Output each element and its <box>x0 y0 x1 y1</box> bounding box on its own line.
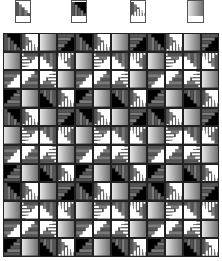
legend-tile-white-stairs <box>130 0 146 23</box>
quilt-tile <box>147 70 165 89</box>
quilt-tile <box>165 182 183 201</box>
quilt-tile <box>111 220 129 239</box>
quilt-tile <box>39 52 57 71</box>
quilt-tile <box>129 33 147 52</box>
quilt-tile <box>165 145 183 164</box>
quilt-tile <box>3 108 21 127</box>
quilt-tile <box>3 52 21 71</box>
quilt-tile <box>111 145 129 164</box>
quilt-tile <box>39 145 57 164</box>
quilt-tile <box>111 201 129 220</box>
quilt-tile <box>165 89 183 108</box>
quilt-tile <box>129 70 147 89</box>
quilt-tile <box>21 33 39 52</box>
quilt-tile <box>147 126 165 145</box>
quilt-tile <box>93 201 111 220</box>
quilt-tile <box>21 145 39 164</box>
quilt-tile <box>93 89 111 108</box>
quilt-tile <box>75 182 93 201</box>
quilt-tile <box>75 220 93 239</box>
quilt-tile <box>39 220 57 239</box>
quilt-tile <box>3 70 21 89</box>
quilt-tile <box>183 238 201 257</box>
quilt-tile <box>39 89 57 108</box>
quilt-tile <box>75 70 93 89</box>
quilt-tile <box>93 126 111 145</box>
legend-tile-stairs-white <box>15 0 31 23</box>
quilt-tile <box>183 220 201 239</box>
quilt-tile <box>129 126 147 145</box>
quilt-tile <box>165 52 183 71</box>
legend-tile-stairs-black <box>71 0 87 23</box>
quilt-tile <box>93 164 111 183</box>
quilt-tile <box>183 145 201 164</box>
quilt-tile <box>39 126 57 145</box>
quilt-tile <box>147 238 165 257</box>
quilt-tile <box>57 33 75 52</box>
quilt-tile <box>3 145 21 164</box>
quilt-tile <box>147 220 165 239</box>
quilt-tile <box>183 70 201 89</box>
quilt-tile <box>129 108 147 127</box>
quilt-tile <box>201 220 219 239</box>
quilt-tile <box>57 238 75 257</box>
quilt-tile <box>111 164 129 183</box>
quilt-tile <box>3 89 21 108</box>
quilt-tile <box>201 238 219 257</box>
quilt-tile <box>165 70 183 89</box>
quilt-tile <box>21 182 39 201</box>
quilt-tile <box>93 33 111 52</box>
quilt-tile <box>147 33 165 52</box>
quilt-tile <box>21 108 39 127</box>
quilt-tile <box>3 201 21 220</box>
quilt-tile <box>111 182 129 201</box>
quilt-tile <box>111 108 129 127</box>
quilt-tile <box>111 238 129 257</box>
quilt-tile <box>57 89 75 108</box>
quilt-tile <box>165 108 183 127</box>
quilt-tile <box>129 89 147 108</box>
quilt-tile <box>129 201 147 220</box>
quilt-tile <box>57 52 75 71</box>
quilt-tile <box>57 164 75 183</box>
quilt-tile <box>3 238 21 257</box>
quilt-tile <box>39 238 57 257</box>
quilt-tile <box>129 145 147 164</box>
quilt-tile <box>93 70 111 89</box>
quilt-tile <box>201 164 219 183</box>
quilt-tile <box>57 145 75 164</box>
quilt-tile <box>201 145 219 164</box>
quilt-tile <box>57 126 75 145</box>
quilt-tile <box>147 52 165 71</box>
quilt-tile <box>93 238 111 257</box>
quilt-tile <box>201 52 219 71</box>
quilt-tile <box>147 182 165 201</box>
quilt-tile <box>165 238 183 257</box>
quilt-tile <box>3 126 21 145</box>
quilt-tile <box>21 70 39 89</box>
quilt-tile <box>111 52 129 71</box>
quilt-tile <box>111 70 129 89</box>
quilt-tile <box>75 126 93 145</box>
quilt-tile <box>111 89 129 108</box>
quilt-tile <box>3 220 21 239</box>
quilt-tile <box>183 108 201 127</box>
quilt-tile <box>3 164 21 183</box>
quilt-tile <box>201 33 219 52</box>
quilt-tile <box>21 164 39 183</box>
quilt-tile <box>21 201 39 220</box>
quilt-tile <box>147 145 165 164</box>
quilt-tile <box>183 89 201 108</box>
quilt-tile <box>129 52 147 71</box>
quilt-tile <box>111 126 129 145</box>
quilt-tile <box>57 182 75 201</box>
quilt-tile <box>75 52 93 71</box>
quilt-tile <box>39 182 57 201</box>
quilt-tile <box>129 238 147 257</box>
quilt-tile <box>147 89 165 108</box>
quilt-tile <box>75 238 93 257</box>
quilt-tile <box>75 89 93 108</box>
quilt-tile <box>201 182 219 201</box>
quilt-tile <box>93 182 111 201</box>
quilt-tile <box>201 70 219 89</box>
